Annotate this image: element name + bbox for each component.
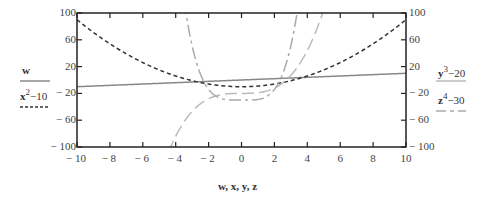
legend-z4-30-line-icon: [436, 109, 466, 113]
legend-y3-20-line-icon: [436, 79, 466, 83]
legend-x2-10: x2−10: [20, 87, 47, 102]
legend-x2-10-line-icon: [20, 105, 50, 109]
legend-w-line-icon: [20, 79, 50, 83]
x-tick-label: 0: [239, 152, 245, 164]
x-tick-label: 10: [401, 152, 412, 164]
right-tick-label: 100: [409, 6, 426, 18]
x-tick-label: − 4: [167, 152, 181, 164]
left-tick-label: − 100: [51, 140, 76, 152]
legend-z4-30: z4−30: [438, 91, 465, 106]
series-x210: [77, 20, 406, 87]
right-tick-label: − 100: [409, 140, 434, 152]
x-tick-label: − 10: [66, 152, 86, 164]
x-tick-label: 4: [305, 152, 311, 164]
left-tick-label: 20: [65, 60, 76, 72]
plot-area: [0, 0, 487, 207]
legend-y3-20: y3−20: [438, 64, 465, 79]
legend-w: w: [22, 64, 30, 76]
left-tick-label: 100: [60, 6, 77, 18]
left-tick-label: − 60: [56, 113, 76, 125]
right-tick-label: 60: [409, 33, 420, 45]
x-tick-label: − 8: [102, 152, 116, 164]
x-tick-label: 6: [337, 152, 343, 164]
right-tick-label: − 20: [409, 86, 429, 98]
x-tick-label: − 6: [135, 152, 149, 164]
x-tick-label: 2: [272, 152, 278, 164]
right-tick-label: − 60: [409, 113, 429, 125]
right-tick-label: 20: [409, 60, 420, 72]
x-tick-label: 8: [370, 152, 376, 164]
series-w: [77, 73, 406, 86]
x-tick-label: − 2: [200, 152, 214, 164]
left-tick-label: − 20: [56, 86, 76, 98]
x-axis-label: w, x, y, z: [218, 180, 257, 192]
left-tick-label: 60: [65, 33, 76, 45]
legend-w-label: w: [22, 64, 30, 76]
